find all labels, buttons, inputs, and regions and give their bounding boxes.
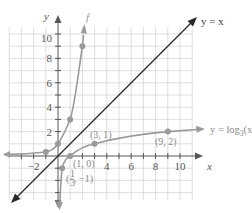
- y-tick-label: 10: [41, 32, 53, 44]
- data-point: [43, 149, 49, 155]
- x-axis: −2 4 6 8 10 x: [9, 153, 212, 173]
- x-tick-label: 6: [128, 160, 134, 172]
- y-tick-label: 4: [47, 101, 53, 113]
- x-axis-arrow-icon: [195, 153, 203, 160]
- point-label-9-2: (9, 2): [155, 136, 177, 148]
- x-tick-label: 4: [104, 160, 110, 172]
- data-point: [79, 43, 85, 49]
- data-point: [67, 116, 73, 122]
- y-tick-label: 2: [47, 126, 53, 138]
- data-point: [165, 129, 171, 135]
- y-axis-arrow-icon: [55, 15, 62, 23]
- curve-log3-arrow-icon: [196, 126, 205, 133]
- data-point: [92, 141, 98, 147]
- curve-f-arrow-icon: [81, 24, 87, 34]
- point-label-3-1: (3, 1): [90, 129, 112, 141]
- curve-f-label: f: [86, 11, 91, 23]
- curve-log3-down-arrow-icon: [56, 202, 63, 210]
- point-label-third: ( 1 3 , −1): [66, 168, 93, 188]
- curve-log3-label: y = log3(x): [210, 124, 252, 138]
- point-label-1-0: (1, 0): [73, 158, 95, 170]
- y-axis-label: y: [43, 10, 49, 22]
- curve-f-left-arrow-icon: [3, 151, 10, 158]
- y-tick-label: 8: [47, 52, 53, 64]
- x-tick-label: 10: [175, 160, 187, 172]
- y-tick-label: 6: [47, 77, 53, 89]
- x-tick-label: −2: [28, 160, 40, 172]
- y-axis: 2 4 6 8 10 y: [41, 10, 62, 208]
- graph: −2 4 6 8 10 x 2 4 6 8 10 y: [0, 0, 252, 213]
- data-point: [59, 165, 65, 171]
- x-tick-label: 8: [153, 160, 159, 172]
- data-point: [55, 141, 61, 147]
- svg-text:, −1): , −1): [74, 173, 93, 185]
- identity-label: y = x: [201, 15, 224, 27]
- x-axis-label: x: [206, 160, 212, 172]
